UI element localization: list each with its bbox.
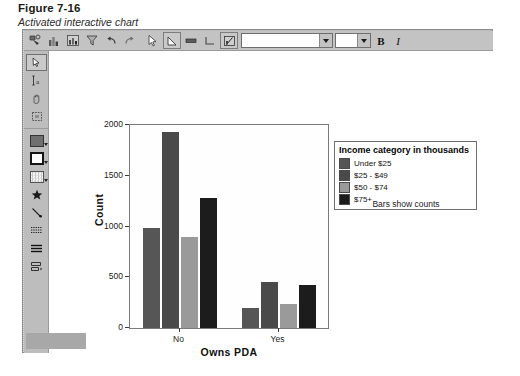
y-tick-label: 1000 <box>104 221 123 231</box>
format-tools-group <box>24 129 48 278</box>
legend-items: Under $25$25 - $49$50 - $74$75+ <box>339 158 472 205</box>
y-tick-label: 500 <box>109 271 123 281</box>
bar[interactable] <box>162 132 179 328</box>
bar[interactable] <box>280 304 297 328</box>
legend-label: $75+ <box>354 195 372 204</box>
marquee-select-icon[interactable] <box>26 108 47 125</box>
bar[interactable] <box>200 198 217 328</box>
shape-tool-icon[interactable] <box>163 32 181 49</box>
legend-label: $25 - $49 <box>354 171 388 180</box>
pointer-tool-icon[interactable] <box>144 32 162 49</box>
text-box-icon[interactable] <box>182 32 200 49</box>
legend-swatch <box>339 182 350 193</box>
bar-group-container <box>130 125 328 328</box>
select-data-icon[interactable] <box>26 32 44 49</box>
legend-title: Income category in thousands <box>339 145 472 156</box>
redo-icon[interactable] <box>121 32 139 49</box>
figure-title: Activated interactive chart <box>18 16 318 29</box>
legend-swatch <box>339 194 350 205</box>
border-style-icon[interactable] <box>26 150 47 167</box>
bar-label-icon[interactable] <box>26 258 47 275</box>
status-block <box>26 333 86 349</box>
bar[interactable] <box>242 308 259 328</box>
x-axis-label: Owns PDA <box>201 346 258 358</box>
line-weight-icon[interactable] <box>26 240 47 257</box>
x-tick <box>278 328 279 332</box>
legend-label: $50 - $74 <box>354 183 388 192</box>
svg-text:a: a <box>36 78 40 86</box>
bar[interactable] <box>299 285 316 328</box>
bold-button[interactable]: B <box>374 33 388 49</box>
bar[interactable] <box>261 282 278 328</box>
fill-color-icon[interactable] <box>26 132 47 149</box>
chevron-down-icon[interactable] <box>357 34 370 47</box>
legend-label: Under $25 <box>354 159 391 168</box>
y-tick-label: 0 <box>118 322 123 332</box>
font-size-select[interactable] <box>335 33 371 48</box>
hand-pan-icon[interactable] <box>26 90 47 107</box>
reference-line-icon[interactable] <box>201 32 219 49</box>
legend-item[interactable]: $50 - $74 <box>339 182 472 193</box>
x-tick-label: No <box>173 334 184 344</box>
legend-item[interactable]: Under $25 <box>339 158 472 169</box>
legend-item[interactable]: $25 - $49 <box>339 170 472 181</box>
selection-tools-group: a <box>24 51 48 129</box>
chart-editor-window: B I a <box>22 29 493 353</box>
arrow-select-icon[interactable] <box>26 54 47 71</box>
filter-icon[interactable] <box>83 32 101 49</box>
legend-note: Bars show counts <box>372 199 439 209</box>
x-tick-label: Yes <box>271 334 285 344</box>
undo-icon[interactable] <box>102 32 120 49</box>
chart-toolbar: B I <box>24 31 493 51</box>
figure-caption: Figure 7-16 Activated interactive chart <box>18 2 318 29</box>
plot-area[interactable] <box>129 124 329 329</box>
text-insert-icon[interactable]: a <box>26 72 47 89</box>
font-family-select[interactable] <box>241 33 333 48</box>
transpose-icon[interactable] <box>220 32 238 49</box>
fill-pattern-icon[interactable] <box>26 168 47 185</box>
x-tick <box>179 328 180 332</box>
chart-canvas[interactable]: Count Owns PDA 0500100015002000 NoYes In… <box>49 51 493 353</box>
marker-star-icon[interactable] <box>26 186 47 203</box>
italic-button[interactable]: I <box>391 33 405 49</box>
figure-number: Figure 7-16 <box>18 2 318 15</box>
chevron-down-icon[interactable] <box>319 34 332 47</box>
y-tick-label: 1500 <box>104 170 123 180</box>
y-tick-label: 2000 <box>104 119 123 129</box>
histogram-icon[interactable] <box>64 32 82 49</box>
line-style-icon[interactable] <box>26 204 47 221</box>
bar[interactable] <box>143 228 160 328</box>
chart-tools-palette: a <box>24 51 49 353</box>
legend-swatch <box>339 158 350 169</box>
bar-chart-icon[interactable] <box>45 32 63 49</box>
dash-pattern-icon[interactable] <box>26 222 47 239</box>
legend-swatch <box>339 170 350 181</box>
bar[interactable] <box>181 237 198 328</box>
